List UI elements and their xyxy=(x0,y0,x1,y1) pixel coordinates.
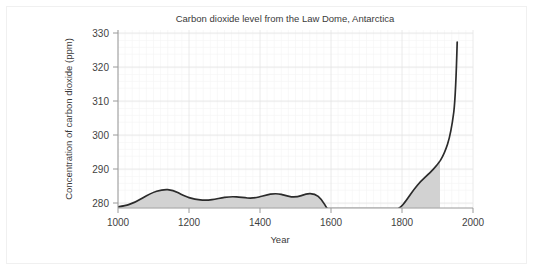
y-tick-label-320: 320 xyxy=(92,62,109,73)
y-axis-title: Concentration of carbon dioxide (ppm) xyxy=(63,38,74,200)
x-tick-label-1000: 1000 xyxy=(107,217,130,228)
y-tick-label-330: 330 xyxy=(92,28,109,39)
chart-title: Carbon dioxide level from the Law Dome, … xyxy=(176,13,395,24)
x-tick-label-2000: 2000 xyxy=(462,217,485,228)
co2-area-chart: 330 320 310 300 290 280 1000 1200 1400 1… xyxy=(0,0,535,271)
y-axis-ticks xyxy=(113,33,118,203)
y-tick-label-290: 290 xyxy=(92,164,109,175)
x-tick-label-1600: 1600 xyxy=(320,217,343,228)
x-tick-label-1800: 1800 xyxy=(391,217,414,228)
y-tick-label-280: 280 xyxy=(92,198,109,209)
y-tick-label-310: 310 xyxy=(92,96,109,107)
x-tick-label-1200: 1200 xyxy=(178,217,201,228)
y-tick-label-300: 300 xyxy=(92,130,109,141)
x-axis-title: Year xyxy=(270,234,289,245)
x-axis-ticks xyxy=(118,208,473,213)
figure-root: 330 320 310 300 290 280 1000 1200 1400 1… xyxy=(0,0,535,271)
co2-baseline-band xyxy=(118,207,440,208)
x-tick-label-1400: 1400 xyxy=(249,217,272,228)
